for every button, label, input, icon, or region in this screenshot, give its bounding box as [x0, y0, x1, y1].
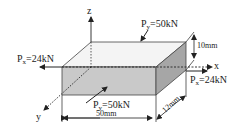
dim-height-ext-top: [186, 32, 194, 42]
dim-depth-label: 12mm: [160, 94, 182, 115]
py-top-arrow: [141, 30, 148, 41]
dim-height-ext-bot: [186, 60, 194, 70]
y-axis-label: y: [36, 111, 41, 122]
front-face: [62, 67, 156, 95]
dim-height-label: 10mm: [197, 41, 218, 50]
px-right-label: Px=24kN: [190, 74, 227, 87]
block-diagram: z x y Px=24kN Px=24kN Py=50kN Py=50kN 50…: [0, 0, 247, 134]
z-axis-label: z: [87, 5, 92, 16]
x-axis-label: x: [214, 60, 219, 71]
py-top-label: Py=50kN: [141, 18, 178, 31]
px-left-label: Px=24kN: [17, 53, 54, 66]
dim-length-label: 50mm: [96, 109, 117, 118]
